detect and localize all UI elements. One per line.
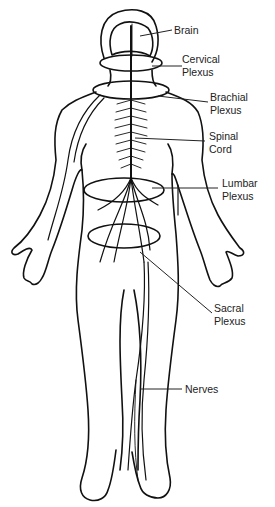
body-figure bbox=[0, 0, 275, 507]
label-brain: Brain bbox=[174, 24, 199, 37]
label-spinal-line1: Spinal bbox=[209, 130, 238, 143]
label-spinal-cord: Spinal Cord bbox=[209, 130, 238, 156]
label-nerves: Nerves bbox=[185, 383, 218, 396]
label-brachial-line2: Plexus bbox=[210, 104, 248, 117]
label-lumbar-line1: Lumbar bbox=[222, 177, 258, 190]
head-outline bbox=[101, 10, 158, 62]
lumbosacral-nerves bbox=[98, 178, 158, 262]
label-lumbar-plexus: Lumbar Plexus bbox=[222, 177, 258, 203]
label-sacral-line1: Sacral bbox=[214, 302, 246, 315]
label-brachial-line1: Brachial bbox=[210, 91, 248, 104]
label-cervical-line2: Plexus bbox=[182, 66, 220, 79]
label-spinal-line2: Cord bbox=[209, 143, 238, 156]
label-brachial-plexus: Brachial Plexus bbox=[210, 91, 248, 117]
nervous-system-diagram: Brain Cervical Plexus Brachial Plexus Sp… bbox=[0, 0, 275, 507]
label-cervical-line1: Cervical bbox=[182, 53, 220, 66]
label-lumbar-line2: Plexus bbox=[222, 190, 258, 203]
label-cervical-plexus: Cervical Plexus bbox=[182, 53, 220, 79]
label-sacral-line2: Plexus bbox=[214, 315, 246, 328]
label-sacral-plexus: Sacral Plexus bbox=[214, 302, 246, 328]
